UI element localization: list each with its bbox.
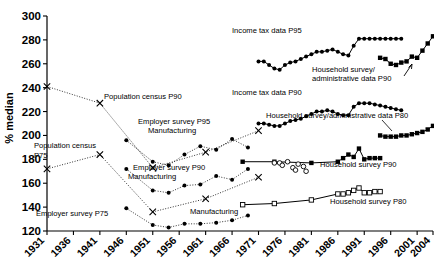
series-line	[126, 139, 248, 165]
data-point	[124, 138, 128, 142]
data-point	[304, 169, 309, 174]
x-tick-label-1951: 1951	[127, 234, 152, 259]
data-point	[198, 182, 202, 186]
data-point	[182, 184, 186, 188]
data-point	[420, 48, 424, 52]
data-point	[283, 122, 287, 126]
data-point	[198, 222, 202, 226]
ann-household-p80: Household survey P80	[330, 197, 406, 206]
data-point	[304, 55, 308, 59]
data-point	[378, 37, 382, 41]
data-point	[230, 218, 234, 222]
data-point	[240, 160, 244, 164]
data-point	[246, 213, 250, 217]
data-point	[124, 206, 128, 210]
data-point	[383, 134, 387, 138]
x-tick-label-1956: 1956	[154, 234, 179, 259]
data-point	[124, 167, 128, 171]
ann-employer-p75: Employer survey P75	[36, 209, 108, 218]
ann-household-admin-p80: Household survey/administrative data P80	[266, 111, 408, 120]
ann-employer-p90b: Manufacturing	[128, 172, 176, 181]
data-point	[255, 174, 261, 180]
data-point	[214, 221, 218, 225]
data-point	[404, 59, 408, 63]
data-point	[301, 164, 306, 169]
data-point	[346, 152, 350, 156]
x-tick-label-1976: 1976	[259, 234, 284, 259]
data-point	[272, 67, 276, 71]
data-point	[368, 37, 372, 41]
data-point	[296, 162, 301, 167]
data-point	[272, 201, 276, 205]
x-tick-label-1936: 1936	[48, 234, 73, 259]
data-point	[97, 151, 103, 157]
data-point	[283, 63, 287, 67]
data-point	[357, 37, 361, 41]
data-point	[404, 133, 408, 137]
data-point	[352, 105, 356, 109]
data-point	[214, 174, 218, 178]
data-point	[357, 146, 361, 150]
x-tick-label-1981: 1981	[286, 234, 311, 259]
x-tick-label-1931: 1931	[21, 234, 46, 259]
y-tick-label-200: 200	[22, 129, 41, 141]
y-tick-label-260: 260	[22, 58, 41, 70]
data-point	[415, 131, 419, 135]
data-point	[394, 37, 398, 41]
y-axis-label: % median	[3, 92, 15, 144]
data-point	[246, 167, 250, 171]
data-point	[293, 168, 298, 173]
data-point	[399, 133, 403, 137]
data-point	[202, 149, 208, 155]
chart-container: 1201401601802002202402602803001931193619…	[0, 0, 434, 269]
data-point	[389, 37, 393, 41]
data-point	[399, 37, 403, 41]
data-point	[309, 198, 313, 202]
data-point	[410, 132, 414, 136]
data-point	[167, 225, 171, 229]
data-point	[278, 68, 282, 72]
data-point	[331, 47, 335, 51]
x-tick-label-1946: 1946	[101, 234, 126, 259]
ann-employer-p95b: Manufacturing	[148, 126, 196, 135]
ann-household-admin-p90: Household survey/	[312, 65, 376, 74]
data-point	[294, 59, 298, 63]
data-point	[357, 101, 361, 105]
ann-population-census-p75: Population census	[34, 141, 96, 150]
data-point	[352, 44, 356, 48]
data-point	[198, 144, 202, 148]
y-tick-label-160: 160	[22, 177, 41, 189]
y-tick-label-220: 220	[22, 106, 41, 118]
y-tick-label-300: 300	[22, 10, 41, 22]
data-point	[240, 203, 244, 207]
data-point	[267, 123, 271, 127]
y-tick-label-280: 280	[22, 34, 41, 46]
x-tick-label-1941: 1941	[74, 234, 99, 259]
chart-svg: 1201401601802002202402602803001931193619…	[0, 0, 434, 269]
data-point	[280, 163, 285, 168]
data-point	[309, 52, 313, 56]
data-point	[320, 50, 324, 54]
x-tick-label-1996: 1996	[365, 234, 390, 259]
data-point	[399, 60, 403, 64]
data-point	[151, 223, 155, 227]
x-tick-label-1966: 1966	[206, 234, 231, 259]
series-household-survey-administrative-data-p80	[378, 124, 434, 139]
ann-manufacturing: Manufacturing	[190, 207, 238, 216]
data-point	[309, 161, 313, 165]
data-point	[346, 53, 350, 57]
data-point	[420, 130, 424, 134]
data-point	[325, 49, 329, 53]
data-point	[246, 145, 250, 149]
data-point	[272, 161, 277, 166]
data-point	[150, 209, 156, 215]
data-point	[336, 50, 340, 54]
data-point	[388, 62, 392, 66]
data-point	[351, 155, 355, 159]
data-point	[389, 106, 393, 110]
data-point	[378, 133, 382, 137]
data-point	[368, 101, 372, 105]
data-point	[415, 56, 419, 60]
data-point	[285, 159, 290, 164]
data-point	[346, 191, 350, 195]
